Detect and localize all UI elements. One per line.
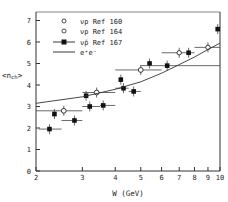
filled-square-marker	[131, 89, 136, 94]
legend-label: ν̄p Ref 167	[80, 39, 122, 47]
legend-open-circle-small-icon	[62, 29, 66, 33]
legend: νp Ref 160νp Ref 164ν̄p Ref 167e⁺e⁻	[53, 18, 122, 57]
x-tick-label: 2	[34, 174, 38, 182]
legend-filled-square-icon	[62, 40, 67, 45]
filled-square-marker	[165, 63, 170, 68]
y-axis-label: <nch>	[2, 71, 23, 80]
filled-square-marker	[215, 27, 220, 32]
y-tick-label: 5	[27, 60, 31, 68]
filled-square-marker	[101, 103, 106, 108]
open-circle-marker	[61, 108, 66, 113]
x-tick-label: 4	[113, 174, 117, 182]
x-tick-label: 5	[139, 174, 143, 182]
legend-label: νp Ref 160	[80, 18, 122, 26]
open-circle-marker	[138, 68, 143, 73]
x-tick-label: 8	[192, 174, 196, 182]
legend-label: νp Ref 164	[80, 28, 122, 36]
x-tick-label: 6	[159, 174, 163, 182]
filled-square-marker	[52, 112, 57, 117]
y-tick-label: 4	[27, 82, 31, 90]
x-tick-label: 7	[177, 174, 181, 182]
y-tick-label: 0	[27, 168, 31, 176]
y-tick-label: 1	[27, 146, 31, 154]
filled-square-marker	[87, 104, 92, 109]
filled-square-marker	[147, 61, 152, 66]
legend-label: e⁺e⁻	[80, 49, 97, 57]
y-axis: 01234567	[27, 17, 40, 176]
filled-square-marker	[47, 127, 52, 132]
legend-open-circle-icon	[62, 19, 66, 23]
x-tick-label: 3	[80, 174, 84, 182]
filled-square-marker	[72, 118, 77, 123]
y-tick-label: 2	[27, 125, 31, 133]
x-tick-label: 10	[216, 174, 224, 182]
multiplicity-chart: 01234567 2345678910 νp Ref 160νp Ref 164…	[0, 0, 228, 202]
x-axis: 2345678910	[34, 167, 224, 182]
filled-square-marker	[186, 50, 191, 55]
y-tick-label: 6	[27, 39, 31, 47]
x-axis-label: W (GeV)	[112, 189, 144, 198]
x-tick-label: 9	[206, 174, 210, 182]
filled-square-marker	[119, 77, 124, 82]
open-circle-marker	[177, 51, 181, 55]
y-tick-label: 3	[27, 103, 31, 111]
plot-frame	[36, 12, 220, 171]
y-tick-label: 7	[27, 17, 31, 25]
